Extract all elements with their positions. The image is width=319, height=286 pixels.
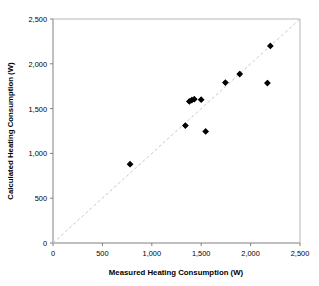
x-tick-label: 2,000	[241, 249, 260, 258]
plot-area	[0, 0, 319, 286]
y-tick-label: 2,000	[17, 59, 47, 68]
data-points	[127, 43, 272, 166]
data-point-marker	[265, 80, 270, 85]
x-tick-label: 500	[96, 249, 108, 258]
x-tick-label: 1,000	[143, 249, 162, 258]
x-tick-label: 0	[51, 249, 55, 258]
y-tick-label: 500	[17, 194, 47, 203]
x-tick-label: 1,500	[192, 249, 211, 258]
y-axis-title: Calculated Heating Consumption (W)	[6, 62, 15, 199]
data-point-marker	[203, 129, 208, 134]
y-tick-label: 0	[17, 239, 47, 248]
data-point-marker	[268, 43, 273, 48]
data-point-marker	[223, 80, 228, 85]
one-to-one-line	[53, 19, 300, 243]
x-tick-label: 2,500	[291, 249, 310, 258]
y-tick-label: 1,000	[17, 149, 47, 158]
data-point-marker	[127, 162, 132, 167]
y-tick-label: 2,500	[17, 15, 47, 24]
data-point-marker	[199, 97, 204, 102]
x-axis-title: Measured Heating Consumption (W)	[109, 268, 243, 277]
y-tick-label: 1,500	[17, 104, 47, 113]
data-point-marker	[183, 123, 188, 128]
scatter-chart: 05001,0001,5002,0002,500 05001,0001,5002…	[0, 0, 319, 286]
reference-line	[53, 19, 300, 243]
